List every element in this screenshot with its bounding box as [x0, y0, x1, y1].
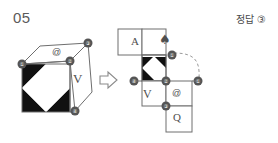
cube-face-glyph-right: V	[73, 72, 82, 85]
net-glyph-Q: Q	[173, 112, 181, 123]
arrow-icon	[100, 72, 117, 88]
cube-face-glyph-top: @	[52, 48, 61, 57]
net-glyph-at: @	[172, 89, 181, 98]
transform-arrow	[100, 72, 117, 88]
net-marker-3	[162, 102, 171, 111]
fold-arc	[174, 53, 199, 79]
cube-marker-1	[18, 60, 27, 69]
cube-marker-3	[84, 39, 93, 48]
net-marker-2	[162, 77, 171, 86]
cube-marker-2	[66, 57, 75, 66]
net-marker-1-top	[168, 51, 177, 60]
cube-marker-4	[71, 107, 80, 116]
figure-stage: @ V A ♠ V @ Q ① ② ③ ④ ① ④ ② ① ③	[0, 0, 278, 143]
net-glyph-V: V	[143, 88, 152, 100]
figure-vector	[0, 0, 278, 143]
page-root: 05 정답③	[0, 0, 278, 143]
net-cell-pattern	[142, 55, 166, 81]
net-glyph-A: A	[131, 36, 139, 47]
net-glyph-spade: ♠	[159, 33, 171, 46]
